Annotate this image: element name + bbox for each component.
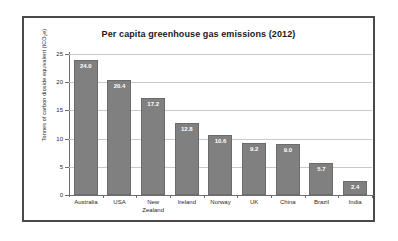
bar[interactable]: 17.2	[141, 98, 165, 195]
bar-value-label: 9.0	[277, 147, 299, 153]
x-axis-category-labels: AustraliaUSANewZealandIrelandNorwayUKChi…	[69, 199, 372, 223]
bar-slot: 9.2	[237, 54, 271, 195]
chart-figure-frame: Per capita greenhouse gas emissions (201…	[22, 16, 375, 222]
bar-slot: 20.4	[103, 54, 137, 195]
bar-slot: 24.0	[69, 54, 103, 195]
bar-slot: 12.8	[170, 54, 204, 195]
y-tick-label: 15	[45, 107, 63, 113]
x-tick-mark	[338, 195, 339, 198]
x-category-label-line: Zealand	[136, 207, 170, 215]
y-tick-label: 5	[45, 163, 63, 169]
x-category-label: Ireland	[170, 199, 204, 207]
x-tick-mark	[103, 195, 104, 198]
y-tick-mark	[65, 195, 69, 196]
bar[interactable]: 2.4	[343, 181, 367, 195]
x-tick-mark	[136, 195, 137, 198]
x-tick-mark	[271, 195, 272, 198]
x-category-label: NewZealand	[136, 199, 170, 214]
bar[interactable]: 20.4	[107, 80, 131, 195]
y-tick-label: 0	[45, 192, 63, 198]
bar-slot: 17.2	[136, 54, 170, 195]
x-category-label-line: Brazil	[305, 199, 339, 207]
bar[interactable]: 9.0	[276, 144, 300, 195]
bar[interactable]: 9.2	[242, 143, 266, 195]
bars-layer: 24.020.417.212.810.69.29.05.72.4	[69, 54, 372, 195]
x-category-label: Norway	[204, 199, 238, 207]
x-category-label: China	[271, 199, 305, 207]
chart-title: Per capita greenhouse gas emissions (201…	[24, 29, 373, 39]
x-tick-mark	[204, 195, 205, 198]
x-category-label: India	[338, 199, 372, 207]
bar-slot: 10.6	[204, 54, 238, 195]
x-category-label-line: UK	[237, 199, 271, 207]
x-category-label: USA	[103, 199, 137, 207]
x-tick-mark	[305, 195, 306, 198]
bar-value-label: 12.8	[176, 126, 198, 132]
bar-slot: 5.7	[305, 54, 339, 195]
x-category-label-line: Norway	[204, 199, 238, 207]
x-category-label-line: USA	[103, 199, 137, 207]
y-tick-label: 10	[45, 135, 63, 141]
bar-slot: 9.0	[271, 54, 305, 195]
x-category-label-line: Australia	[69, 199, 103, 207]
x-tick-mark	[170, 195, 171, 198]
bar-value-label: 10.6	[209, 138, 231, 144]
x-category-label-line: Ireland	[170, 199, 204, 207]
bar-slot: 2.4	[338, 54, 372, 195]
y-tick-label: 20	[45, 79, 63, 85]
bar-value-label: 17.2	[142, 101, 164, 107]
x-category-label-line: India	[338, 199, 372, 207]
x-category-label-line: China	[271, 199, 305, 207]
x-category-label: Australia	[69, 199, 103, 207]
x-tick-mark	[372, 195, 373, 198]
bar[interactable]: 5.7	[309, 163, 333, 195]
bar-value-label: 2.4	[344, 184, 366, 190]
x-tick-mark	[237, 195, 238, 198]
plot-area: 0510152025 24.020.417.212.810.69.29.05.7…	[69, 54, 372, 195]
bar[interactable]: 24.0	[74, 60, 98, 195]
y-axis-title-subscript: 2	[43, 34, 48, 36]
bar[interactable]: 10.6	[208, 135, 232, 195]
y-tick-label: 25	[45, 51, 63, 57]
x-axis-line	[69, 195, 374, 196]
bar-value-label: 9.2	[243, 146, 265, 152]
x-category-label: Brazil	[305, 199, 339, 207]
bar-value-label: 20.4	[108, 83, 130, 89]
bar-value-label: 24.0	[75, 63, 97, 69]
x-category-label-line: New	[136, 199, 170, 207]
bar-value-label: 5.7	[310, 166, 332, 172]
bar[interactable]: 12.8	[175, 123, 199, 195]
x-category-label: UK	[237, 199, 271, 207]
